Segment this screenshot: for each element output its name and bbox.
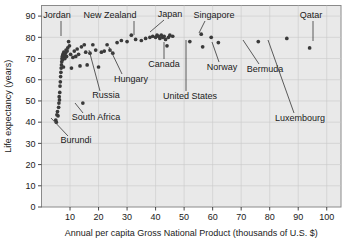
y-axis-title: Life expectancy (years) — [3, 60, 13, 153]
x-tick-label: 50 — [179, 212, 189, 222]
x-tick-label: 100 — [319, 212, 334, 222]
y-tick-label: 40 — [25, 117, 35, 127]
data-point — [217, 41, 221, 45]
data-point — [56, 114, 60, 118]
data-point — [285, 37, 289, 41]
data-point — [120, 39, 124, 43]
data-point — [84, 50, 88, 54]
data-point — [199, 32, 203, 36]
data-point — [144, 37, 148, 41]
data-point — [134, 38, 138, 42]
x-tick-label: 70 — [236, 212, 246, 222]
y-tick-label: 70 — [25, 54, 35, 64]
data-point — [56, 110, 60, 114]
x-tick-label: 90 — [293, 212, 303, 222]
data-point — [68, 44, 72, 48]
data-point — [102, 49, 106, 53]
x-tick-label: 40 — [151, 212, 161, 222]
x-tick-label: 30 — [122, 212, 132, 222]
data-point — [62, 65, 66, 69]
data-point — [58, 80, 62, 84]
scatter-chart: 1020304050607080901000102030405060708090… — [0, 0, 347, 245]
annotation-label: South Africa — [72, 112, 121, 122]
y-tick-label: 0 — [30, 202, 35, 212]
data-point — [57, 105, 61, 109]
x-tick-label: 20 — [94, 212, 104, 222]
annotation-label: New Zealand — [83, 10, 136, 20]
y-tick-label: 20 — [25, 160, 35, 170]
y-tick-label: 60 — [25, 75, 35, 85]
x-tick-label: 60 — [208, 212, 218, 222]
data-point — [81, 101, 85, 105]
x-tick-label: 10 — [65, 212, 75, 222]
data-point — [82, 43, 86, 47]
data-point — [139, 39, 143, 43]
data-point — [201, 45, 205, 49]
annotation-label: United States — [163, 91, 218, 101]
y-tick-label: 10 — [25, 181, 35, 191]
y-tick-label: 50 — [25, 96, 35, 106]
data-point — [65, 55, 69, 59]
annotation-label: Norway — [207, 62, 238, 72]
data-point — [171, 34, 175, 38]
data-point — [69, 52, 73, 56]
annotation-label: Burundi — [60, 135, 91, 145]
data-point — [165, 44, 169, 48]
y-tick-label: 80 — [25, 33, 35, 43]
annotation-label: Russia — [92, 90, 120, 100]
annotation-label: Singapore — [193, 10, 234, 20]
data-point — [97, 65, 101, 69]
data-point — [59, 70, 63, 74]
data-point — [308, 46, 312, 50]
data-point — [256, 40, 260, 44]
data-point — [209, 35, 213, 39]
x-tick-label: 80 — [265, 212, 275, 222]
annotation-label: Hungary — [114, 74, 149, 84]
data-point — [58, 84, 62, 88]
data-point — [57, 101, 61, 105]
data-point — [78, 64, 82, 68]
data-point — [130, 33, 134, 37]
data-point — [188, 40, 192, 44]
annotation-label: Luxembourg — [275, 113, 325, 123]
data-point — [75, 47, 79, 51]
data-point — [94, 48, 98, 52]
data-point — [65, 49, 69, 53]
annotation-label: Jordan — [43, 10, 71, 20]
data-point — [91, 43, 95, 47]
data-point — [67, 40, 71, 44]
annotation-label: Qatar — [300, 10, 323, 20]
data-point — [58, 91, 62, 95]
annotation-label: Canada — [148, 59, 180, 69]
data-point — [105, 43, 109, 47]
y-tick-label: 30 — [25, 139, 35, 149]
plot-area — [42, 6, 342, 208]
data-point — [115, 41, 119, 45]
data-point — [85, 63, 89, 67]
annotation-label: Bermuda — [247, 64, 284, 74]
x-axis-title: Annual per capita Gross National Product… — [65, 228, 318, 238]
data-point — [59, 75, 63, 79]
data-point — [70, 66, 74, 70]
data-point — [58, 98, 62, 102]
data-point — [125, 40, 129, 44]
annotation-label: Japan — [158, 9, 183, 19]
y-tick-label: 90 — [25, 11, 35, 21]
data-point — [162, 34, 166, 38]
data-point — [77, 52, 81, 56]
chart-canvas: 1020304050607080901000102030405060708090… — [0, 0, 347, 245]
data-point — [57, 95, 61, 99]
